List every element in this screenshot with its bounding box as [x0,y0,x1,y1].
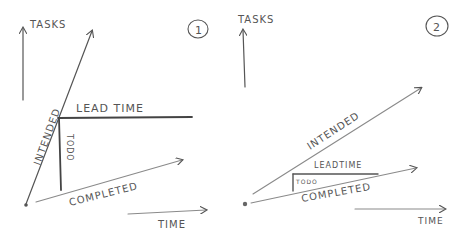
completed-label: COMPLETED [68,180,139,208]
y-axis-label: TASKS [237,14,274,25]
x-axis-arrow [128,210,206,214]
panel-number: 1 [195,24,203,37]
intended-line [253,88,421,194]
y-axis-arrow [243,30,245,87]
intended-label: INTENDED [32,106,63,166]
lead-time-line [58,117,192,118]
origin-dot [243,202,247,206]
panel-number: 2 [433,21,441,34]
x-axis-label: TIME [417,216,444,226]
lead-time-label: LEAD TIME [76,102,144,115]
todo-line [59,118,61,190]
y-axis-label: TASKS [29,19,66,30]
lead-time-label: LEADTIME [314,161,362,170]
origin-dot [24,203,28,207]
x-axis-label: TIME [157,219,186,230]
todo-label: TODO [295,178,318,185]
diagram-canvas: TASKS 1 INTENDED LEAD TIME TODO COMPLETE… [0,0,467,240]
todo-label: TODO [65,133,74,162]
panel-1: TASKS 1 INTENDED LEAD TIME TODO COMPLETE… [23,19,208,230]
panel-2: TASKS 2 INTENDED COMPLETED LEADTIME TODO… [237,14,448,226]
